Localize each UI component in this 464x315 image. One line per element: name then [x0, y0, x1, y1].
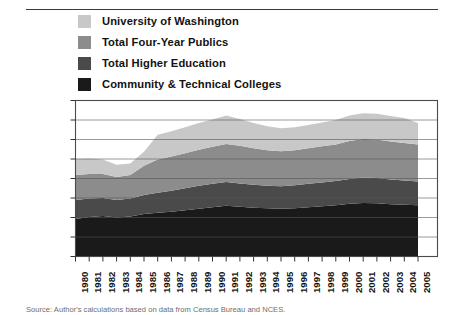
x-tick-label: 1984	[134, 271, 143, 292]
x-tick-label: 1985	[148, 271, 157, 292]
x-tick-label: 1986	[162, 271, 171, 292]
x-tick-label: 1988	[189, 271, 198, 292]
x-tick-label: 1999	[340, 271, 349, 292]
x-tick-label: 1995	[285, 271, 294, 292]
x-tick-label: 1987	[175, 271, 184, 292]
x-tick-label: 1980	[80, 271, 89, 292]
x-tick-label: 2000	[354, 271, 363, 292]
x-tick-label: 1983	[121, 271, 130, 292]
x-tick-label: 1982	[107, 271, 116, 292]
x-axis-tick-labels: 1980198119821983198419851986198719881989…	[0, 0, 464, 315]
x-tick-label: 2002	[381, 271, 390, 292]
x-tick-label: 1998	[326, 271, 335, 292]
x-tick-label: 2004	[408, 271, 417, 292]
x-tick-label: 1994	[271, 271, 280, 292]
x-tick-label: 2003	[395, 271, 404, 292]
x-tick-label: 1996	[299, 271, 308, 292]
x-tick-label: 1989	[203, 271, 212, 292]
x-tick-label: 1997	[312, 271, 321, 292]
x-tick-label: 1993	[258, 271, 267, 292]
x-tick-label: 1981	[93, 271, 102, 292]
x-tick-label: 2005	[422, 271, 431, 292]
source-note: Source: Author's calculations based on d…	[26, 305, 356, 315]
x-tick-label: 1992	[244, 271, 253, 292]
x-tick-label: 1991	[230, 271, 239, 292]
x-tick-label: 1990	[217, 271, 226, 292]
x-tick-label: 2001	[367, 271, 376, 292]
